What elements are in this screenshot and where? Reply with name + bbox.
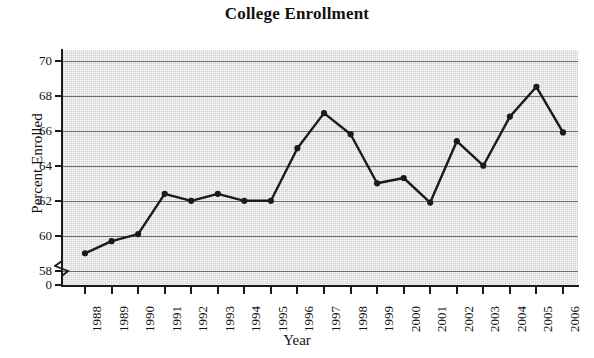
x-axis-tick-label: 2005	[541, 286, 555, 332]
data-point-marker	[268, 198, 274, 204]
x-axis-tick	[403, 286, 405, 294]
data-point-marker	[374, 180, 380, 186]
data-point-marker	[215, 191, 221, 197]
x-axis-tick	[296, 286, 298, 294]
x-axis-tick	[535, 286, 537, 294]
x-axis-tick	[137, 286, 139, 294]
y-axis-tick	[55, 95, 63, 97]
x-axis-title: Year	[0, 332, 594, 349]
x-axis-tick-label: 1992	[196, 286, 210, 332]
data-point-marker	[321, 110, 327, 116]
x-axis-tick	[217, 286, 219, 294]
y-axis-tick	[55, 284, 63, 286]
y-axis-break-icon	[54, 255, 70, 281]
x-axis-tick-label: 1989	[117, 286, 131, 332]
x-axis-tick-label: 1997	[329, 286, 343, 332]
x-axis-tick	[243, 286, 245, 294]
x-axis-tick-label: 1995	[276, 286, 290, 332]
chart-figure: College Enrollment 706866646260580 Perce…	[0, 0, 594, 358]
x-axis-tick	[111, 286, 113, 294]
x-axis-tick	[164, 286, 166, 294]
x-axis-tick	[376, 286, 378, 294]
y-axis-tick-label: 58	[26, 264, 52, 277]
x-axis-tick-label: 1996	[302, 286, 316, 332]
data-point-marker	[480, 163, 486, 169]
data-point-marker	[162, 191, 168, 197]
y-axis-title: Percent Enrolled	[29, 64, 46, 264]
x-axis-tick	[270, 286, 272, 294]
x-axis-tick-label: 2004	[515, 286, 529, 332]
x-axis-tick-label: 1993	[223, 286, 237, 332]
x-axis-tick	[456, 286, 458, 294]
data-point-marker	[454, 138, 460, 144]
x-axis-tick-label: 1990	[143, 286, 157, 332]
data-point-marker	[507, 114, 513, 120]
chart-title: College Enrollment	[0, 4, 594, 24]
x-axis-tick-label: 2001	[435, 286, 449, 332]
x-axis-tick-label: 1998	[356, 286, 370, 332]
y-axis-tick	[55, 200, 63, 202]
data-point-marker	[533, 84, 539, 90]
x-axis-tick-label: 2002	[462, 286, 476, 332]
data-point-marker	[401, 175, 407, 181]
x-axis-tick-label: 2000	[409, 286, 423, 332]
x-axis-tick	[509, 286, 511, 294]
data-series-line	[62, 50, 578, 285]
x-axis-tick-label: 2006	[568, 286, 582, 332]
y-axis-tick	[55, 165, 63, 167]
data-point-marker	[241, 198, 247, 204]
y-axis-tick	[55, 235, 63, 237]
x-axis-tick	[482, 286, 484, 294]
data-point-marker	[427, 200, 433, 206]
y-axis-tick	[55, 60, 63, 62]
x-axis-tick-label: 1999	[382, 286, 396, 332]
data-point-marker	[188, 198, 194, 204]
data-point-marker	[135, 231, 141, 237]
data-point-marker	[82, 250, 88, 256]
plot-area	[62, 50, 578, 285]
x-axis-tick-label: 1988	[90, 286, 104, 332]
x-axis-tick-label: 1991	[170, 286, 184, 332]
x-axis-tick	[323, 286, 325, 294]
data-point-marker	[560, 129, 566, 135]
y-axis-tick	[55, 130, 63, 132]
x-axis-tick	[84, 286, 86, 294]
x-axis-tick	[429, 286, 431, 294]
y-axis-line	[61, 49, 63, 286]
x-axis-tick	[190, 286, 192, 294]
data-point-marker	[294, 145, 300, 151]
x-axis-tick	[350, 286, 352, 294]
x-axis-tick	[562, 286, 564, 294]
data-point-marker	[348, 131, 354, 137]
x-axis-tick-label: 2003	[488, 286, 502, 332]
y-axis-tick-label: 0	[26, 278, 52, 291]
data-point-marker	[109, 238, 115, 244]
x-axis-tick-label: 1994	[249, 286, 263, 332]
